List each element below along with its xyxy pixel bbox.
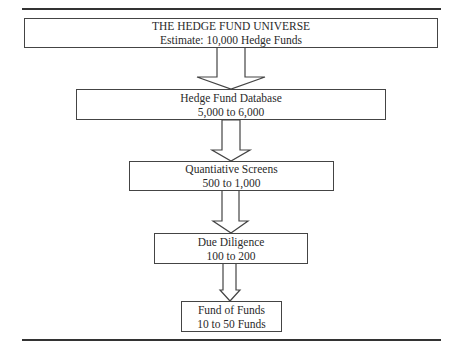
stage-title: THE HEDGE FUND UNIVERSE — [152, 19, 310, 33]
stage-title: Fund of Funds — [198, 303, 265, 317]
stage-quantitative-screens: Quantiative Screens 500 to 1,000 — [129, 161, 334, 191]
stage-hedge-fund-database: Hedge Fund Database 5,000 to 6,000 — [76, 89, 386, 120]
stage-title: Hedge Fund Database — [180, 91, 282, 105]
down-arrow-icon — [197, 47, 265, 89]
down-arrow-icon — [212, 120, 250, 161]
stage-subtitle: Estimate: 10,000 Hedge Funds — [160, 33, 302, 47]
stage-subtitle: 10 to 50 Funds — [197, 317, 266, 331]
stage-hedge-fund-universe: THE HEDGE FUND UNIVERSE Estimate: 10,000… — [24, 18, 438, 48]
stage-title: Due Diligence — [198, 235, 265, 249]
bottom-rule — [22, 339, 441, 341]
down-arrow-icon — [220, 263, 240, 301]
stage-subtitle: 500 to 1,000 — [203, 176, 261, 190]
stage-title: Quantiative Screens — [185, 162, 277, 176]
down-arrow-icon — [213, 190, 248, 233]
stage-due-diligence: Due Diligence 100 to 200 — [154, 233, 308, 264]
stage-subtitle: 100 to 200 — [206, 249, 255, 263]
stage-fund-of-funds: Fund of Funds 10 to 50 Funds — [181, 301, 282, 332]
stage-subtitle: 5,000 to 6,000 — [198, 105, 264, 119]
